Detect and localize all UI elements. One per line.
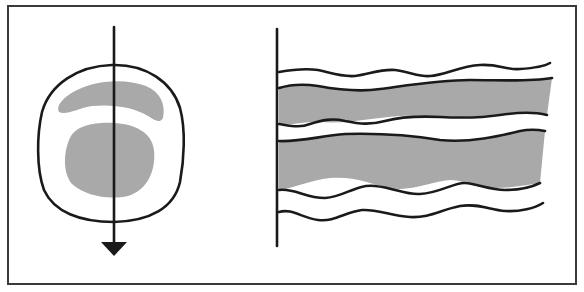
arrow-down-icon (101, 242, 127, 256)
longitudinal-panel (277, 29, 552, 246)
wavy-line-bottom (279, 203, 543, 220)
wavy-line-top (279, 63, 550, 76)
cross-section-panel (38, 27, 184, 256)
round-blob-shape (65, 123, 154, 198)
crescent-shape (58, 81, 163, 121)
diagram-canvas (0, 0, 584, 292)
shaded-band-lower (279, 130, 545, 190)
